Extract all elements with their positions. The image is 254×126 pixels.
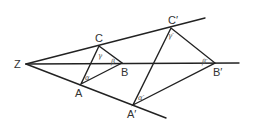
label-a: A <box>75 87 83 99</box>
ray-upper <box>26 18 205 64</box>
dilation-diagram: Z C B A C′ B′ A′ γ β α γ′ β′ α′ <box>0 0 254 126</box>
ray-lower <box>26 64 166 118</box>
label-b-prime: B′ <box>213 66 222 78</box>
label-c-prime: C′ <box>168 14 178 26</box>
label-b: B <box>121 66 128 78</box>
angle-beta-prime: β′ <box>201 58 208 66</box>
angle-beta: β <box>110 58 115 66</box>
angle-alpha-prime: α′ <box>138 94 145 102</box>
label-a-prime: A′ <box>127 108 136 120</box>
label-c: C <box>95 32 103 44</box>
triangle-a-prime-b-prime-c-prime <box>133 28 215 105</box>
angle-gamma: γ <box>98 52 103 60</box>
angle-gamma-prime: γ′ <box>168 32 174 40</box>
label-z: Z <box>14 58 21 70</box>
angle-alpha: α <box>85 74 90 82</box>
